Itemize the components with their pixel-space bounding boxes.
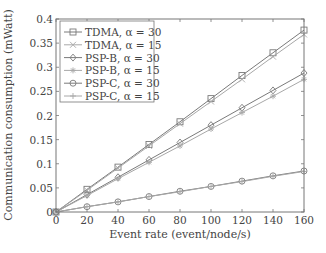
legend-label: PSP-C, α = 30 bbox=[85, 77, 160, 89]
y-tick-label: 0.05 bbox=[30, 182, 53, 194]
x-tick-label: 80 bbox=[173, 214, 186, 226]
y-tick-label: 0.4 bbox=[36, 13, 53, 25]
y-tick-label: 0.3 bbox=[36, 61, 53, 73]
x-tick-label: 100 bbox=[201, 214, 221, 226]
legend-label: PSP-C, α = 15 bbox=[85, 90, 160, 102]
legend-label: TDMA, α = 15 bbox=[85, 39, 161, 51]
line-chart: 020406080100120140160 00.050.10.150.20.2… bbox=[0, 0, 326, 253]
legend-label: PSP-B, α = 30 bbox=[85, 52, 160, 64]
y-tick-label: 0.2 bbox=[36, 110, 53, 122]
y-tick-label: 0.25 bbox=[30, 85, 53, 97]
x-tick-label: 0 bbox=[53, 214, 60, 226]
legend-label: PSP-B, α = 15 bbox=[85, 64, 160, 76]
legend-label: TDMA, α = 30 bbox=[85, 26, 161, 38]
legend: TDMA, α = 30TDMA, α = 15PSP-B, α = 30PSP… bbox=[60, 21, 161, 102]
x-tick-label: 140 bbox=[263, 214, 283, 226]
y-tick-label: 0.15 bbox=[30, 134, 53, 146]
x-tick-label: 40 bbox=[111, 214, 124, 226]
x-tick-label: 160 bbox=[294, 214, 314, 226]
y-axis-label: Communication consumption (mWatt) bbox=[2, 9, 15, 220]
y-tick-label: 0.35 bbox=[30, 37, 53, 49]
x-tick-label: 60 bbox=[142, 214, 155, 226]
x-tick-label: 20 bbox=[80, 214, 93, 226]
x-tick-label: 120 bbox=[232, 214, 252, 226]
y-tick-label: 0.1 bbox=[36, 158, 53, 170]
x-axis-label: Event rate (event/node/s) bbox=[109, 228, 251, 241]
y-tick-label: 0 bbox=[46, 206, 53, 218]
series-psp-c-15 bbox=[53, 168, 307, 215]
